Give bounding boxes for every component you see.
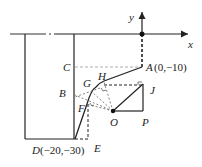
- right-angle-mark-F: [90, 103, 94, 106]
- label-B: B: [59, 87, 66, 99]
- x-axis-label: x: [187, 38, 193, 50]
- origin-dot: [140, 32, 145, 37]
- y-axis-label: y: [128, 11, 134, 23]
- label-H: H: [97, 70, 107, 82]
- label-P: P: [141, 116, 149, 128]
- label-C: C: [63, 61, 71, 73]
- label-F: F: [77, 102, 85, 114]
- label-O: O: [110, 116, 118, 128]
- label-J: J: [150, 84, 156, 96]
- right-angle-mark-H: [101, 88, 106, 91]
- left-rectangle: [25, 34, 75, 139]
- label-A: A: [145, 61, 153, 73]
- triangle-OPJ: [113, 84, 143, 111]
- label-D-coords: (−20,−30): [40, 144, 85, 157]
- label-G: G: [83, 77, 91, 89]
- label-A-coords: (0,−10): [154, 61, 187, 74]
- point-O-dot: [111, 109, 115, 113]
- label-E: E: [93, 142, 101, 154]
- label-D: D: [31, 144, 40, 156]
- diagram-canvas: y x A (0,−10) C B G H F J O P E D (−20,−…: [0, 0, 202, 167]
